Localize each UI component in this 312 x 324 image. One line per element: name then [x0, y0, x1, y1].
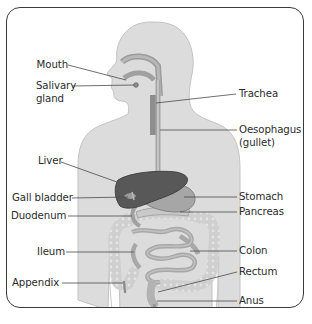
label-ileum: Ileum: [37, 246, 65, 258]
label-mouth: Mouth: [37, 59, 68, 71]
appendix: [124, 282, 125, 292]
anal-canal: [154, 304, 156, 314]
label-anus: Anus: [239, 295, 264, 307]
rectum: [151, 284, 154, 304]
salivary-gland: [134, 83, 139, 88]
label-oesophagus-line1: Oesophagus: [239, 124, 301, 136]
trachea-tube: [150, 95, 156, 135]
label-pancreas: Pancreas: [239, 206, 284, 218]
label-stomach: Stomach: [239, 191, 283, 203]
label-colon: Colon: [239, 245, 267, 257]
label-oesophagus-line2: (gullet): [239, 137, 275, 149]
label-salivary-gland-line2: gland: [36, 93, 64, 105]
label-duodenum: Duodenum: [11, 210, 66, 222]
label-gall-bladder: Gall bladder: [12, 192, 73, 204]
label-trachea: Trachea: [239, 88, 278, 100]
label-liver: Liver: [38, 155, 63, 167]
label-appendix: Appendix: [12, 277, 59, 289]
label-rectum: Rectum: [239, 266, 277, 278]
label-salivary-gland-line1: Salivary: [36, 80, 76, 92]
